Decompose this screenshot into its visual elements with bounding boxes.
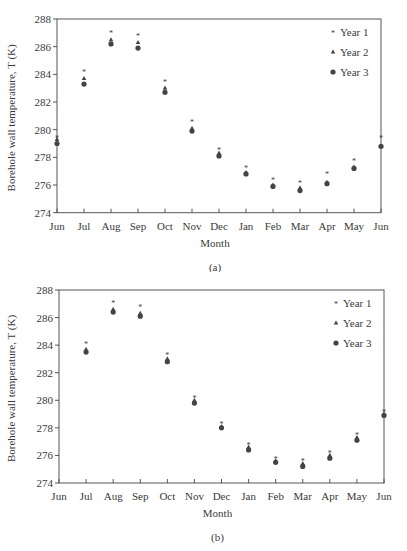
x-tick-label: Mar bbox=[291, 220, 310, 232]
series-year-1: ************ bbox=[84, 299, 386, 467]
x-tick-label: Jun bbox=[51, 490, 67, 502]
x-tick-label: Mar bbox=[294, 490, 313, 502]
legend-label: Year 2 bbox=[340, 46, 369, 58]
plot-area: 274276278280282284286288JunJulAugSepOctN… bbox=[37, 284, 393, 502]
data-point bbox=[324, 181, 329, 186]
chart-panel-a: 274276278280282284286288JunJulAugSepOctN… bbox=[0, 0, 407, 272]
x-tick-label: Jun bbox=[49, 220, 65, 232]
series-year-3 bbox=[83, 309, 386, 469]
legend-label: Year 1 bbox=[343, 297, 372, 309]
data-point bbox=[270, 184, 275, 189]
data-point bbox=[378, 144, 383, 149]
data-point bbox=[108, 41, 113, 46]
data-point: * bbox=[379, 134, 383, 143]
data-point bbox=[354, 438, 359, 443]
data-point bbox=[351, 166, 356, 171]
data-point bbox=[273, 460, 278, 465]
y-tick-label: 278 bbox=[35, 151, 52, 163]
legend-item: Year 3 bbox=[330, 66, 369, 78]
circle-marker-icon bbox=[333, 340, 338, 345]
data-point: * bbox=[136, 32, 140, 41]
x-tick-label: Sep bbox=[130, 220, 147, 232]
y-tick-label: 276 bbox=[37, 449, 54, 461]
x-axis-label: Month bbox=[203, 507, 233, 519]
x-tick-label: May bbox=[344, 220, 365, 232]
data-point: * bbox=[190, 118, 194, 127]
legend-item: *Year 1 bbox=[331, 26, 369, 38]
x-tick-label: Oct bbox=[159, 490, 175, 502]
data-point bbox=[54, 141, 59, 146]
y-tick-label: 274 bbox=[37, 477, 54, 489]
x-tick-label: Feb bbox=[265, 220, 282, 232]
data-point bbox=[189, 128, 194, 133]
data-point: * bbox=[163, 78, 167, 87]
legend-label: Year 3 bbox=[340, 66, 369, 78]
chart-b: 274276278280282284286288JunJulAugSepOctN… bbox=[0, 272, 407, 551]
x-tick-label: Nov bbox=[185, 490, 204, 502]
y-axis-label: Borehole wall temperature, T (K) bbox=[5, 44, 18, 191]
legend: *Year 1Year 2Year 3 bbox=[330, 26, 369, 78]
data-point bbox=[219, 425, 224, 430]
data-point bbox=[216, 153, 221, 158]
legend-item: Year 2 bbox=[331, 46, 369, 58]
figure-caption: (a) bbox=[209, 261, 222, 272]
x-tick-label: Jun bbox=[373, 220, 389, 232]
data-point bbox=[297, 188, 302, 193]
data-point: * bbox=[325, 170, 329, 179]
data-point bbox=[162, 90, 167, 95]
series-year-2 bbox=[84, 307, 387, 466]
x-tick-label: Feb bbox=[267, 490, 284, 502]
data-point: * bbox=[82, 68, 86, 77]
star-marker-icon: * bbox=[331, 29, 335, 38]
x-tick-label: Oct bbox=[157, 220, 173, 232]
y-tick-label: 274 bbox=[35, 207, 52, 219]
chart-panel-b: 274276278280282284286288JunJulAugSepOctN… bbox=[0, 272, 407, 551]
x-tick-label: Aug bbox=[104, 490, 123, 502]
legend-item: *Year 1 bbox=[334, 297, 372, 309]
data-point bbox=[111, 309, 116, 314]
x-tick-label: Apr bbox=[318, 220, 335, 232]
legend-item: Year 3 bbox=[333, 337, 372, 349]
y-tick-label: 282 bbox=[37, 367, 54, 379]
y-tick-label: 288 bbox=[35, 13, 52, 25]
x-tick-label: Dec bbox=[210, 220, 228, 232]
x-tick-label: Sep bbox=[132, 490, 149, 502]
figure-caption: (b) bbox=[211, 531, 224, 544]
y-tick-label: 276 bbox=[35, 179, 52, 191]
x-tick-label: May bbox=[347, 490, 368, 502]
data-point bbox=[246, 447, 251, 452]
x-tick-label: Apr bbox=[321, 490, 338, 502]
x-tick-label: Jul bbox=[78, 220, 91, 232]
plot-frame bbox=[59, 290, 384, 483]
triangle-marker-icon bbox=[331, 49, 336, 53]
triangle-marker-icon bbox=[334, 320, 339, 324]
x-tick-label: Jan bbox=[241, 490, 256, 502]
legend-label: Year 2 bbox=[343, 317, 372, 329]
chart-a: 274276278280282284286288JunJulAugSepOctN… bbox=[0, 0, 407, 272]
plot-area: 274276278280282284286288JunJulAugSepOctN… bbox=[35, 13, 390, 232]
data-point: * bbox=[352, 157, 356, 166]
x-tick-label: Aug bbox=[102, 220, 121, 232]
data-point: * bbox=[111, 299, 115, 308]
data-point: * bbox=[138, 303, 142, 312]
y-tick-label: 286 bbox=[37, 312, 54, 324]
series-year-3 bbox=[54, 41, 383, 193]
y-axis-label: Borehole wall temperature, T (K) bbox=[5, 315, 18, 462]
data-point: * bbox=[109, 29, 113, 38]
star-marker-icon: * bbox=[334, 300, 338, 309]
data-point bbox=[300, 464, 305, 469]
y-tick-label: 282 bbox=[35, 96, 52, 108]
data-point bbox=[83, 349, 88, 354]
x-tick-label: Jul bbox=[80, 490, 93, 502]
x-tick-label: Dec bbox=[213, 490, 231, 502]
data-point bbox=[192, 400, 197, 405]
legend-label: Year 3 bbox=[343, 337, 372, 349]
x-tick-label: Jun bbox=[376, 490, 392, 502]
x-axis-label: Month bbox=[200, 237, 230, 249]
x-tick-label: Jan bbox=[239, 220, 254, 232]
data-point bbox=[81, 81, 86, 86]
legend-label: Year 1 bbox=[340, 26, 369, 38]
y-tick-label: 278 bbox=[37, 422, 54, 434]
y-tick-label: 280 bbox=[37, 394, 54, 406]
y-tick-label: 280 bbox=[35, 124, 52, 136]
